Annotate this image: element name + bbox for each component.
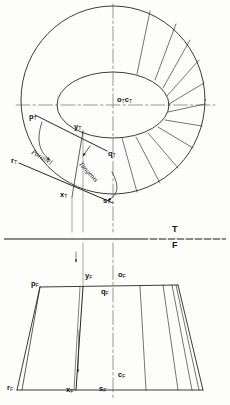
point-label-qF: qF bbox=[101, 288, 109, 296]
point-label-oT-cT: oTcT bbox=[117, 96, 132, 104]
leader-tangents bbox=[108, 172, 117, 200]
frustum-left-slant bbox=[17, 287, 40, 390]
point-label-qT: qT bbox=[108, 150, 116, 158]
point-label-sF: sF bbox=[99, 385, 106, 393]
point-label-cF: cF bbox=[118, 371, 125, 379]
drawing-canvas: T F Parallel Tangents oTcT pT yT qT rT x… bbox=[0, 0, 230, 405]
point-label-pF: pF bbox=[31, 280, 39, 288]
point-label-xF: xF bbox=[66, 386, 73, 394]
point-label-xT: xT bbox=[60, 191, 67, 199]
geometry-figure bbox=[0, 0, 230, 405]
front-view-group bbox=[17, 243, 203, 400]
point-label-sT: sT bbox=[103, 197, 110, 205]
point-label-yF: yF bbox=[85, 272, 92, 280]
leader-y-dot bbox=[83, 146, 90, 156]
fold-label-front: F bbox=[172, 240, 178, 250]
point-label-rT: rT bbox=[11, 157, 17, 165]
frustum-top-edge bbox=[40, 285, 178, 287]
line-p-r bbox=[22, 287, 40, 390]
point-label-pT: pT bbox=[29, 113, 37, 121]
tangent-line-pq bbox=[35, 115, 107, 151]
top-view-group bbox=[16, 4, 215, 232]
point-label-yT: yT bbox=[74, 123, 81, 131]
fold-label-top: T bbox=[172, 224, 178, 234]
element-lines-topview bbox=[122, 11, 205, 192]
point-label-oF: oF bbox=[118, 271, 126, 279]
point-label-rF: rF bbox=[7, 384, 13, 392]
